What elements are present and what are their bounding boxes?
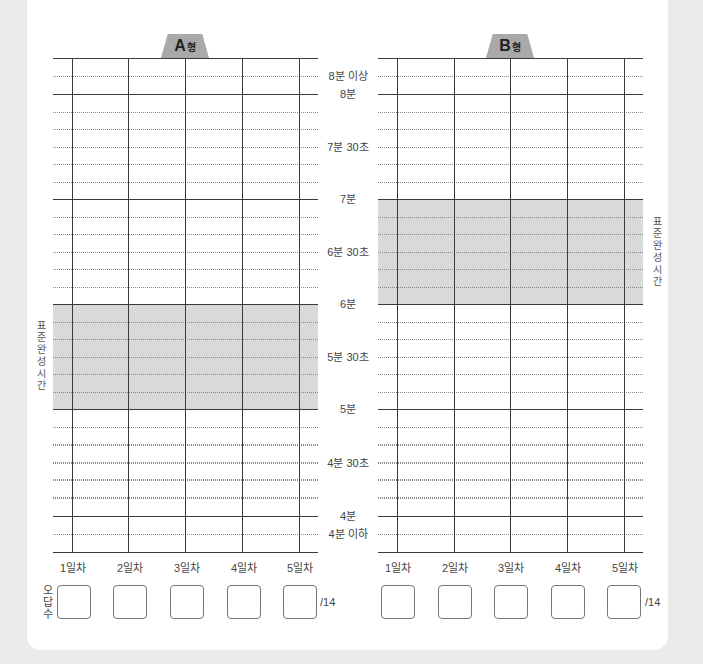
grid-column-line <box>567 58 568 552</box>
wrong-answers-box-b-2[interactable] <box>438 585 472 619</box>
tab-a-suffix: 형 <box>187 39 196 54</box>
wrong-answers-box-a-5[interactable] <box>283 585 317 619</box>
wrong-answers-box-b-1[interactable] <box>381 585 415 619</box>
grid-column-line <box>242 58 243 552</box>
wrong-answers-total-b: /14 <box>645 596 660 608</box>
y-axis-label: 8분 <box>318 88 378 100</box>
grid-column-line <box>510 58 511 552</box>
day-label-b-3: 3일차 <box>486 559 536 575</box>
grid-column-line <box>128 58 129 552</box>
wrong-answers-box-a-2[interactable] <box>113 585 147 619</box>
wrong-answers-box-a-3[interactable] <box>170 585 204 619</box>
grid-column-line <box>185 58 186 552</box>
y-axis-label: 6분 30초 <box>318 246 378 258</box>
grid-column-line <box>397 58 398 552</box>
grid-column-line <box>299 58 300 552</box>
day-label-b-2: 2일차 <box>430 559 480 575</box>
tab-a-type: A형 <box>161 34 209 58</box>
y-axis-label: 5분 <box>318 403 378 415</box>
day-label-a-4: 4일차 <box>219 559 269 575</box>
grid-column-line <box>624 58 625 552</box>
grid-line-major <box>378 552 643 553</box>
wrong-answers-box-b-3[interactable] <box>494 585 528 619</box>
day-label-b-1: 1일차 <box>373 559 423 575</box>
tab-b-suffix: 형 <box>512 39 521 54</box>
y-axis-label: 7분 30초 <box>318 141 378 153</box>
y-axis-label: 6분 <box>318 298 378 310</box>
y-axis-label: 8분 이상 <box>318 70 378 82</box>
tab-b-type: B형 <box>486 34 534 58</box>
y-axis-label: 4분 이하 <box>318 528 378 540</box>
grid-column-line <box>72 58 73 552</box>
y-axis-label: 4분 30초 <box>318 457 378 469</box>
day-label-a-5: 5일차 <box>275 559 325 575</box>
wrong-answers-box-a-4[interactable] <box>227 585 261 619</box>
standard-time-label-a: 표준완성시간 <box>34 320 48 392</box>
grid-column-line <box>454 58 455 552</box>
y-axis-label: 4분 <box>318 510 378 522</box>
day-label-a-2: 2일차 <box>105 559 155 575</box>
standard-time-label-b: 표준완성시간 <box>650 216 664 288</box>
day-label-a-3: 3일차 <box>162 559 212 575</box>
wrong-answers-total-a: /14 <box>320 596 335 608</box>
day-label-a-1: 1일차 <box>48 559 98 575</box>
day-label-b-4: 4일차 <box>543 559 593 575</box>
tab-b-letter: B <box>499 37 511 55</box>
wrong-answers-box-b-4[interactable] <box>551 585 585 619</box>
grid-line-major <box>53 552 318 553</box>
tab-a-letter: A <box>174 37 186 55</box>
wrong-answers-box-a-1[interactable] <box>57 585 91 619</box>
wrong-answers-label: 오답수 <box>41 584 55 620</box>
day-label-b-5: 5일차 <box>600 559 650 575</box>
y-axis-label: 5분 30초 <box>318 351 378 363</box>
wrong-answers-box-b-5[interactable] <box>607 585 641 619</box>
y-axis-label: 7분 <box>318 193 378 205</box>
